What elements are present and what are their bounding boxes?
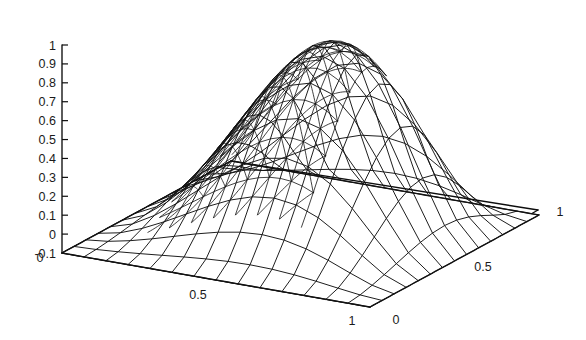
mesh-diagonal-anti <box>327 72 337 121</box>
z-tick-label: 0.2 <box>39 190 56 204</box>
mesh-diagonal <box>238 106 272 153</box>
surface-mesh <box>62 41 539 307</box>
z-tick-label: 1 <box>49 39 56 53</box>
z-tick-label: 0.1 <box>39 209 56 223</box>
z-tick-label: 0 <box>49 228 56 242</box>
surface-plot-figure: 10.90.80.70.60.50.40.30.20.10-0.1 0 0.5 … <box>0 0 586 340</box>
z-tick-label: 0.7 <box>39 95 56 109</box>
z-tick-label: 0.4 <box>39 152 56 166</box>
label-y-start: 0 <box>393 313 400 327</box>
mesh-diagonal-anti <box>315 104 325 156</box>
z-axis: 10.90.80.70.60.50.40.30.20.10-0.1 <box>34 39 68 261</box>
mesh-line-v-refined <box>196 68 350 173</box>
z-tick-label: 0.3 <box>39 171 56 185</box>
z-axis-tick-labels: 10.90.80.70.60.50.40.30.20.10-0.1 <box>34 39 56 261</box>
label-y-mid: 0.5 <box>474 260 491 274</box>
z-tick-label: 0.9 <box>39 57 56 71</box>
z-axis-ticks <box>62 45 68 253</box>
z-tick-label: 0.5 <box>39 133 56 147</box>
plot-canvas: 10.90.80.70.60.50.40.30.20.10-0.1 0 0.5 … <box>0 0 586 340</box>
label-origin: 0 <box>37 251 44 265</box>
z-tick-label: 0.8 <box>39 76 56 90</box>
mesh-diagonal <box>208 129 242 163</box>
label-y-end: 1 <box>557 205 564 219</box>
label-x-mid: 0.5 <box>189 288 206 302</box>
mesh-diagonal <box>306 51 340 67</box>
label-x-end: 1 <box>349 314 356 328</box>
z-tick-label: 0.6 <box>39 114 56 128</box>
